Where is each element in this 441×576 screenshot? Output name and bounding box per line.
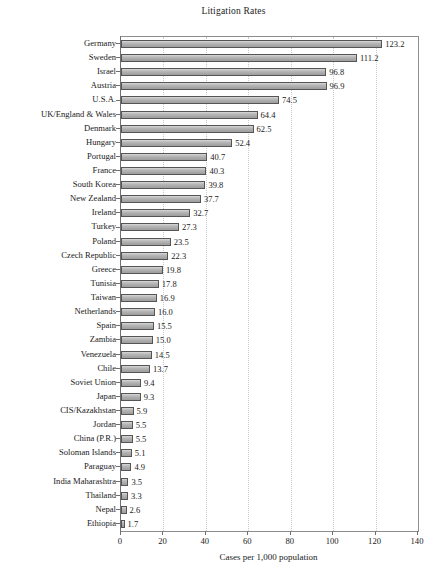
bar[interactable] [121, 125, 254, 133]
category-tick [116, 523, 120, 524]
bar[interactable] [121, 308, 155, 316]
category-tick [116, 339, 120, 340]
bar[interactable] [121, 238, 171, 246]
category-label: Chile [0, 361, 116, 375]
bar-value-label: 15.0 [156, 333, 171, 347]
bar-value-label: 40.3 [209, 164, 224, 178]
category-label: Soloman Islands [0, 445, 116, 459]
x-tick-label: 60 [243, 536, 252, 546]
bar[interactable] [121, 82, 327, 90]
bar-value-label: 40.7 [210, 150, 225, 164]
bar[interactable] [121, 195, 201, 203]
bar[interactable] [121, 421, 133, 429]
category-label: U.S.A. [0, 92, 116, 106]
category-tick [116, 325, 120, 326]
bar-row: 27.3 [121, 220, 418, 234]
category-label: Taiwan [0, 290, 116, 304]
category-tick [116, 396, 120, 397]
x-tick-label: 80 [285, 536, 294, 546]
bar[interactable] [121, 492, 128, 500]
bar-value-label: 23.5 [174, 235, 189, 249]
x-axis: 020406080100120140 [120, 531, 418, 551]
bar-value-label: 5.5 [136, 418, 147, 432]
chart-title: Litigation Rates [0, 6, 441, 16]
bar-row: 2.6 [121, 503, 418, 517]
bar-value-label: 9.4 [144, 376, 155, 390]
bar[interactable] [121, 209, 190, 217]
bar[interactable] [121, 153, 207, 161]
category-tick [116, 156, 120, 157]
bar[interactable] [121, 280, 159, 288]
category-label: Tunisia [0, 276, 116, 290]
category-tick [116, 170, 120, 171]
bar[interactable] [121, 478, 128, 486]
bar-row: 96.8 [121, 65, 418, 79]
bar[interactable] [121, 68, 326, 76]
category-label: Turkey [0, 219, 116, 233]
category-tick [116, 424, 120, 425]
category-label: Japan [0, 389, 116, 403]
bar[interactable] [121, 435, 133, 443]
bar-row: 5.5 [121, 432, 418, 446]
bar[interactable] [121, 54, 357, 62]
bar-row: 22.3 [121, 249, 418, 263]
bar[interactable] [121, 463, 131, 471]
bar[interactable] [121, 167, 206, 175]
bar[interactable] [121, 336, 153, 344]
category-label: Thailand [0, 488, 116, 502]
x-tick [332, 531, 333, 535]
bar-row: 52.4 [121, 136, 418, 150]
bar-row: 96.9 [121, 79, 418, 93]
bar[interactable] [121, 449, 132, 457]
plot-area: 123.2111.296.896.974.564.462.552.440.740… [120, 36, 419, 532]
bar[interactable] [121, 520, 125, 528]
category-label: France [0, 163, 116, 177]
bar-row: 123.2 [121, 37, 418, 51]
bar[interactable] [121, 266, 163, 274]
bar[interactable] [121, 506, 127, 514]
bar[interactable] [121, 351, 152, 359]
bar[interactable] [121, 139, 232, 147]
bar-value-label: 123.2 [385, 37, 404, 51]
category-label: Portugal [0, 149, 116, 163]
category-tick [116, 452, 120, 453]
bar-value-label: 111.2 [360, 51, 379, 65]
bar-row: 39.8 [121, 178, 418, 192]
bar[interactable] [121, 393, 141, 401]
bar-value-label: 5.9 [137, 404, 148, 418]
bar[interactable] [121, 181, 205, 189]
bar[interactable] [121, 252, 168, 260]
bar[interactable] [121, 379, 141, 387]
bar[interactable] [121, 96, 279, 104]
category-label: Netherlands [0, 304, 116, 318]
bar-value-label: 96.9 [330, 79, 345, 93]
x-tick [417, 531, 418, 535]
bar[interactable] [121, 223, 179, 231]
bar[interactable] [121, 111, 258, 119]
bar[interactable] [121, 407, 134, 415]
bar-row: 5.1 [121, 446, 418, 460]
bar[interactable] [121, 322, 154, 330]
bar-value-label: 37.7 [204, 192, 219, 206]
category-label: India Maharashtra [0, 474, 116, 488]
category-label: Hungary [0, 135, 116, 149]
bar-row: 23.5 [121, 235, 418, 249]
bar-value-label: 39.8 [208, 178, 223, 192]
bar[interactable] [121, 40, 382, 48]
category-label: Poland [0, 234, 116, 248]
bar-row: 17.8 [121, 277, 418, 291]
bar-value-label: 14.5 [155, 348, 170, 362]
category-label: Czech Republic [0, 248, 116, 262]
bar-value-label: 13.7 [153, 362, 168, 376]
bar-value-label: 15.5 [157, 319, 172, 333]
bar[interactable] [121, 294, 157, 302]
bar-value-label: 4.9 [134, 460, 145, 474]
bar-row: 4.9 [121, 460, 418, 474]
category-tick [116, 128, 120, 129]
category-label: Soviet Union [0, 375, 116, 389]
bar[interactable] [121, 365, 150, 373]
category-tick [116, 297, 120, 298]
x-tick-label: 0 [118, 536, 122, 546]
bar-row: 15.0 [121, 333, 418, 347]
category-tick [116, 57, 120, 58]
